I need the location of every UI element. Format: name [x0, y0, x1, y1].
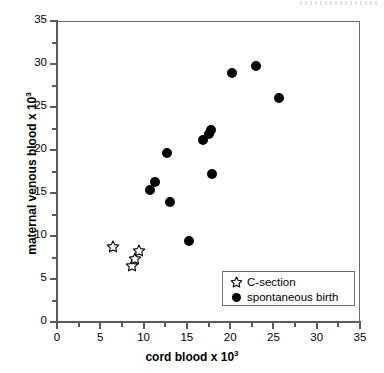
x-axis-title-exponent: 3 [234, 349, 238, 358]
x-tick-label-35: 35 [345, 331, 375, 343]
legend-label: spontaneous birth [247, 291, 338, 303]
y-minor-tick-22.5 [52, 128, 57, 130]
y-minor-tick-7.5 [52, 257, 57, 259]
y-minor-tick-32.5 [52, 42, 57, 44]
x-minor-tick-7.5 [121, 322, 123, 327]
x-tick-35 [359, 322, 361, 329]
x-tick-label-25: 25 [258, 331, 288, 343]
filled-circle-marker [206, 125, 216, 135]
open-star-marker-0 [106, 240, 120, 254]
filled-circle-icon [232, 293, 241, 302]
x-minor-tick-32.5 [337, 322, 339, 327]
filled-circle-marker [150, 177, 160, 187]
x-tick-label-5: 5 [85, 331, 115, 343]
y-tick-15 [50, 192, 57, 194]
x-tick-label-30: 30 [302, 331, 332, 343]
x-tick-label-10: 10 [129, 331, 159, 343]
filled-circle-marker [184, 236, 194, 246]
legend-entry-spontaneous-birth: spontaneous birth [229, 290, 354, 304]
filled-circle-marker [251, 61, 261, 71]
x-tick-label-20: 20 [215, 331, 245, 343]
x-tick-20 [229, 322, 231, 329]
x-tick-15 [186, 322, 188, 329]
filled-circle-marker [207, 169, 217, 179]
y-minor-tick-12.5 [52, 214, 57, 216]
x-tick-5 [99, 322, 101, 329]
y-tick-35 [50, 20, 57, 22]
legend-label: C-section [247, 276, 296, 288]
data-point-spontaneous-birth-3 [165, 197, 175, 207]
legend-entry-c-section: C-section [229, 275, 354, 289]
filled-circle-marker [227, 68, 237, 78]
x-tick-0 [56, 322, 58, 329]
y-tick-5 [50, 278, 57, 280]
data-point-spontaneous-birth-0 [145, 185, 155, 195]
y-minor-tick-27.5 [52, 85, 57, 87]
data-point-spontaneous-birth-2 [162, 148, 172, 158]
y-tick-10 [50, 235, 57, 237]
filled-circle-marker [145, 185, 155, 195]
y-axis-title-text: maternal venous blood x 10 [25, 97, 39, 255]
x-minor-tick-2.5 [78, 322, 80, 327]
open-star-marker-3 [132, 244, 146, 258]
filled-circle-marker [274, 93, 284, 103]
x-tick-30 [316, 322, 318, 329]
filled-circle-marker [162, 148, 172, 158]
data-point-spontaneous-birth-7 [206, 125, 216, 135]
x-axis-title: cord blood x 103 [0, 349, 384, 364]
y-axis-title-exponent: 3 [24, 92, 33, 96]
y-tick-20 [50, 149, 57, 151]
y-tick-30 [50, 63, 57, 65]
x-tick-10 [143, 322, 145, 329]
chart-page: 0510152025303505101520253035 cord blood … [0, 0, 384, 373]
data-point-spontaneous-birth-1 [150, 177, 160, 187]
x-tick-label-0: 0 [42, 331, 72, 343]
y-minor-tick-2.5 [52, 300, 57, 302]
y-tick-label-0: 0 [21, 314, 47, 326]
x-tick-25 [272, 322, 274, 329]
filled-circle-marker [165, 197, 175, 207]
x-minor-tick-27.5 [294, 322, 296, 327]
x-axis-title-text: cord blood x 10 [145, 350, 234, 364]
data-point-spontaneous-birth-4 [184, 236, 194, 246]
data-point-spontaneous-birth-9 [227, 68, 237, 78]
y-axis-title: maternal venous blood x 103 [24, 39, 39, 309]
legend-open-star-icon [229, 275, 243, 289]
x-minor-tick-17.5 [208, 322, 210, 327]
x-minor-tick-12.5 [164, 322, 166, 327]
scan-artifact [300, 1, 378, 5]
x-minor-tick-22.5 [251, 322, 253, 327]
y-tick-25 [50, 106, 57, 108]
legend-filled-circle-icon [229, 290, 243, 304]
x-tick-label-15: 15 [172, 331, 202, 343]
legend-box: C-sectionspontaneous birth [222, 271, 355, 306]
y-tick-label-35: 35 [21, 13, 47, 25]
y-minor-tick-17.5 [52, 171, 57, 173]
data-point-spontaneous-birth-11 [274, 93, 284, 103]
data-point-spontaneous-birth-8 [207, 169, 217, 179]
data-point-spontaneous-birth-10 [251, 61, 261, 71]
